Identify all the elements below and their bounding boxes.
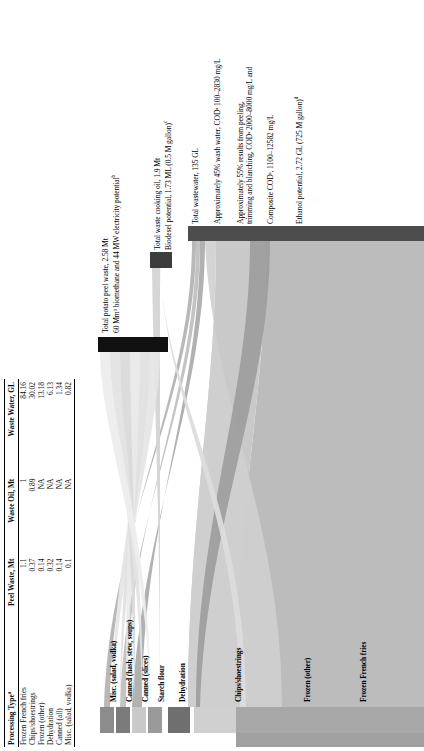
source-label-frozen-french-fries: Frozen French fries <box>359 642 368 702</box>
th-processing-type: Processing Typea <box>5 641 19 747</box>
label-wastewater-peeling: Approximately 55% results from peeling, … <box>236 67 255 224</box>
cell-water: 6.13 <box>46 379 55 476</box>
cell-oil: NA <box>37 476 46 556</box>
waste-data-table: Processing Typea Peel Waste, Mt Waste Oi… <box>4 377 108 747</box>
cell-water: 84.16 <box>18 379 28 476</box>
cell-water: 1.34 <box>55 379 64 476</box>
label-wastewater-washwater: Approximately 45% wash water, CODᵃ 100–2… <box>213 59 222 225</box>
cell-oil: NA <box>46 476 55 556</box>
th-peel-waste: Peel Waste, Mt <box>5 556 19 641</box>
cell-type: Dehydration <box>46 641 55 747</box>
label-total-wastewater: Total wastewater, 135 GL <box>191 148 200 224</box>
node-frozen-french-fries <box>236 733 424 747</box>
source-label-dehydration: Dehydration <box>178 663 187 702</box>
cell-peel: 0.14 <box>55 556 64 641</box>
cell-oil: NA <box>64 476 75 556</box>
label-peel-line2: 60 Mm³ biomethane and 44 MW electricity … <box>110 175 121 333</box>
source-label-canned-slices: Canned (slices) <box>141 656 150 702</box>
label-water-line4: Composite CODᵃ, 1100–12582 mg/L <box>266 114 275 224</box>
table-row: Canned (all) 0.14 NA 1.34 <box>55 379 64 747</box>
node-total-waste-oil <box>150 252 172 268</box>
cell-oil: NA <box>55 476 64 556</box>
cell-type: Canned (all) <box>55 641 64 747</box>
cell-water: 0.82 <box>64 379 75 476</box>
cell-oil: 1 <box>18 476 28 556</box>
table-row: Dehydration 0.32 NA 6.13 <box>46 379 55 747</box>
cell-peel: 0.32 <box>46 556 55 641</box>
node-canned-hash <box>116 707 130 733</box>
source-label-misc: Misc. (salad, vodka) <box>109 641 118 702</box>
node-ffr-band <box>236 707 424 733</box>
cell-peel: 0.1 <box>64 556 75 641</box>
label-water-line1: Total wastewater, 135 GL <box>191 148 200 224</box>
node-dehydration <box>168 707 190 733</box>
cell-type: Chips/shoestrings <box>28 641 37 747</box>
cell-peel: 0.14 <box>37 556 46 641</box>
label-oil-line1: Total waste cooking oil, 1.9 Mt <box>153 121 162 250</box>
cell-peel: 0.37 <box>28 556 37 641</box>
table-row: Frozen (other) 0.14 NA 13.18 <box>37 379 46 747</box>
label-water-line2: Approximately 45% wash water, CODᵃ 100–2… <box>213 59 222 225</box>
cell-type: Frozen (other) <box>37 641 46 747</box>
label-wastewater-cod: Composite CODᵃ, 1100–12582 mg/L <box>266 114 275 224</box>
source-label-starch-flour: Starch flour <box>157 665 166 702</box>
label-oil-line2: Biodesel potential, 1.73 ML (0.5 M gallo… <box>162 121 173 250</box>
node-starch-flour <box>148 707 162 733</box>
cell-type: Misc. (salad, vodka) <box>64 641 75 747</box>
flow-chips-oil <box>152 268 160 707</box>
table-row: Frozen French fries 1.1 1 84.16 <box>18 379 28 747</box>
label-total-peel-waste: Total potato peel waste, 2.58 Mt 60 Mm³ … <box>101 175 122 333</box>
label-total-waste-oil: Total waste cooking oil, 1.9 Mt Biodesel… <box>153 121 174 250</box>
label-water-line3b: trimming and blanching, CODᵃ 2000–8000 m… <box>245 67 254 224</box>
cell-peel: 1.1 <box>18 556 28 641</box>
th-waste-oil: Waste Oil, Mt <box>5 476 19 556</box>
th-waste-water: Waste Water, GL <box>5 379 19 476</box>
cell-water: 30.02 <box>28 379 37 476</box>
table-header-row: Processing Typea Peel Waste, Mt Waste Oi… <box>5 379 19 747</box>
source-label-frozen-other: Frozen (other) <box>303 658 312 702</box>
label-wastewater-ethanol: Ethanol potential, 2.72 GL (725 M gallon… <box>293 97 304 224</box>
cell-type: Frozen French fries <box>18 641 28 747</box>
cell-oil: 0.89 <box>28 476 37 556</box>
figure-root: Total potato peel waste, 2.58 Mt 60 Mm³ … <box>0 0 424 751</box>
label-water-line3a: Approximately 55% results from peeling, <box>236 67 245 224</box>
label-water-line5: Ethanol potential, 2.72 GL (725 M gallon… <box>293 97 304 224</box>
node-canned-slices <box>132 707 146 733</box>
node-total-wastewater <box>188 226 424 241</box>
cell-water: 13.18 <box>37 379 46 476</box>
label-peel-line1: Total potato peel waste, 2.58 Mt <box>101 175 110 333</box>
node-total-peel-waste <box>98 337 168 352</box>
table-row: Misc. (salad, vodka) 0.1 NA 0.82 <box>64 379 75 747</box>
table-row: Chips/shoestrings 0.37 0.89 30.02 <box>28 379 37 747</box>
source-label-chips-shoestrings: Chips/shoestrings <box>234 648 243 702</box>
source-label-canned-hash: Canned (hash, stew, soups) <box>125 620 134 702</box>
